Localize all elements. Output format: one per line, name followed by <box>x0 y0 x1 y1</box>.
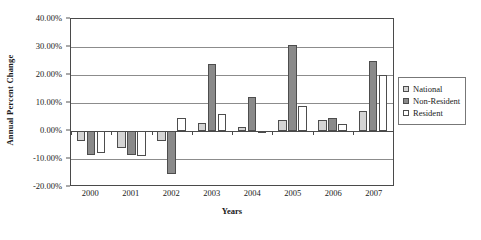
bar-national-2000 <box>77 131 86 141</box>
bar-group <box>272 19 312 185</box>
bar-group <box>232 19 272 185</box>
bar-national-2002 <box>157 131 166 141</box>
bar-group <box>152 19 192 185</box>
y-axis-tick-label: 0.00% <box>40 125 62 135</box>
y-axis-tick-label: 20.00% <box>36 69 62 79</box>
bar-national-2001 <box>117 131 126 148</box>
y-axis-tick-label: 10.00% <box>36 97 62 107</box>
x-axis-tick-label: 2001 <box>111 188 152 204</box>
bar-non-resident-2005 <box>288 45 297 131</box>
bar-non-resident-2000 <box>87 131 96 155</box>
x-axis-tick-mark <box>353 131 354 135</box>
bar-group <box>111 19 151 185</box>
bar-national-2005 <box>278 120 287 131</box>
bar-group <box>192 19 232 185</box>
bar-group <box>353 19 393 185</box>
bar-resident-2005 <box>298 106 307 131</box>
bar-resident-2006 <box>338 124 347 131</box>
bar-resident-2002 <box>177 118 186 131</box>
bar-non-resident-2003 <box>208 64 217 131</box>
x-axis-tick-labels: 20002001200220032004200520062007 <box>70 188 394 204</box>
x-axis-tick-label: 2006 <box>313 188 354 204</box>
bar-resident-2000 <box>97 131 106 153</box>
y-axis-title: Annual Percent Change <box>2 0 18 200</box>
y-axis-tick-label: 30.00% <box>36 41 62 51</box>
x-axis-tick-mark <box>192 131 193 135</box>
plot-area <box>70 18 394 186</box>
legend-item-label: Resident <box>413 108 443 118</box>
bar-resident-2003 <box>218 114 227 131</box>
bar-national-2006 <box>318 120 327 131</box>
x-axis-tick-label: 2004 <box>232 188 273 204</box>
x-axis-tick-mark <box>232 131 233 135</box>
bar-chart: Annual Percent Change 40.00%30.00%20.00%… <box>0 0 481 240</box>
bar-national-2007 <box>359 111 368 131</box>
legend-item-national[interactable]: National <box>403 84 460 94</box>
y-axis-tick-label: -10.00% <box>33 153 62 163</box>
x-axis-tick-label: 2005 <box>273 188 314 204</box>
bar-non-resident-2006 <box>328 118 337 131</box>
x-axis-tick-label: 2007 <box>354 188 395 204</box>
bar-group <box>313 19 353 185</box>
legend: NationalNon-ResidentResident <box>398 77 466 125</box>
y-axis-tick-label: 40.00% <box>36 13 62 23</box>
bar-national-2004 <box>238 127 247 131</box>
bar-resident-2004 <box>258 131 267 133</box>
legend-swatch-icon <box>403 86 409 92</box>
bar-resident-2007 <box>379 75 388 131</box>
x-axis-tick-mark <box>152 131 153 135</box>
x-axis-tick-mark <box>313 131 314 135</box>
x-axis-tick-label: 2000 <box>70 188 111 204</box>
legend-item-label: Non-Resident <box>413 96 460 106</box>
legend-item-resident[interactable]: Resident <box>403 108 460 118</box>
legend-swatch-icon <box>403 98 409 104</box>
bar-non-resident-2002 <box>167 131 176 174</box>
bar-groups <box>71 19 393 185</box>
bar-non-resident-2001 <box>127 131 136 155</box>
x-axis-tick-mark <box>111 131 112 135</box>
x-axis-tick-label: 2003 <box>192 188 233 204</box>
x-axis-tick-label: 2002 <box>151 188 192 204</box>
x-axis-tick-mark <box>71 131 72 135</box>
y-axis-tick-label: -20.00% <box>33 181 62 191</box>
y-axis-title-text: Annual Percent Change <box>5 55 15 146</box>
legend-item-label: National <box>413 84 442 94</box>
legend-item-non-resident[interactable]: Non-Resident <box>403 96 460 106</box>
bar-non-resident-2004 <box>248 97 257 131</box>
legend-swatch-icon <box>403 110 409 116</box>
bar-resident-2001 <box>137 131 146 156</box>
y-axis-tick-labels: 40.00%30.00%20.00%10.00%0.00%-10.00%-20.… <box>18 18 66 186</box>
bar-group <box>71 19 111 185</box>
bar-non-resident-2007 <box>369 61 378 131</box>
x-axis-tick-mark <box>272 131 273 135</box>
bar-national-2003 <box>198 123 207 131</box>
x-axis-title: Years <box>70 206 394 216</box>
